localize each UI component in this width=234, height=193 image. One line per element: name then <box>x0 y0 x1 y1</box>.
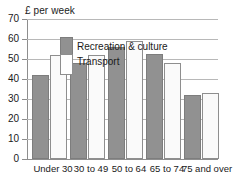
bar-transport-65-to-74[interactable] <box>164 63 181 159</box>
y-tick-label-30: 30 <box>0 94 19 104</box>
bar-recreation-75-and-over[interactable] <box>184 95 201 159</box>
gridline-baseline-0 <box>27 159 218 160</box>
y-tick-label-20: 20 <box>0 114 19 124</box>
plot-area: Recreation & culture Transport <box>27 19 218 159</box>
y-tick-label-50: 50 <box>0 54 19 64</box>
bar-recreation-30-to-49[interactable] <box>70 63 87 159</box>
y-tick-label-10: 10 <box>0 134 19 144</box>
gridline-60 <box>27 39 218 40</box>
y-tick-label-70: 70 <box>0 14 19 24</box>
bar-recreation-65-to-74[interactable] <box>146 54 163 159</box>
y-tick-label-40: 40 <box>0 74 19 84</box>
x-tick-label-75-and-over: 75 and over <box>172 163 234 174</box>
bar-transport-75-and-over[interactable] <box>202 93 219 159</box>
bar-transport-50-to-64[interactable] <box>126 41 143 159</box>
bar-chart-figure: £ per week 70 60 50 40 30 20 10 0 <box>0 0 234 193</box>
legend-swatch-transport-icon <box>60 54 73 75</box>
y-tick-label-60: 60 <box>0 34 19 44</box>
bar-recreation-under-30[interactable] <box>32 75 49 159</box>
bar-transport-30-to-49[interactable] <box>88 55 105 159</box>
legend-label-recreation: Recreation & culture <box>77 41 168 53</box>
y-tick-label-0: 0 <box>0 154 19 164</box>
legend-label-transport: Transport <box>77 56 119 68</box>
gridline-70 <box>27 19 218 20</box>
y-axis-unit-label: £ per week <box>25 5 75 16</box>
